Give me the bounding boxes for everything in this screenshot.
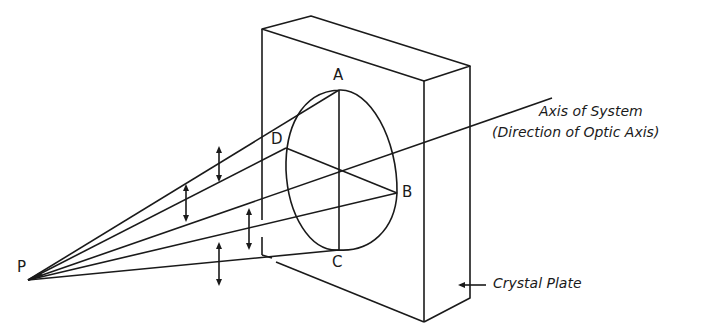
rays (28, 90, 552, 280)
point-C-label: C (332, 253, 342, 271)
point-D-label: D (271, 130, 283, 148)
crystal-plate-label: Crystal Plate (493, 275, 582, 291)
optic-axis-direction-label: (Direction of Optic Axis) (492, 124, 659, 140)
crystal-plate (262, 16, 470, 322)
point-A-label: A (333, 66, 343, 84)
point-P-label: P (17, 258, 26, 276)
axis-of-system-label: Axis of System (539, 103, 643, 119)
point-B-label: B (402, 183, 412, 201)
diagram-canvas (0, 0, 704, 331)
